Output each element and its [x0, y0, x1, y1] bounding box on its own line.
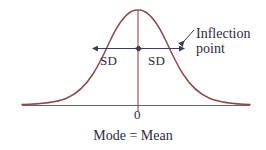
mode-mean-axis-label: Mode = Mean — [0, 128, 266, 143]
sd-left-label: SD — [100, 54, 117, 68]
zero-tick-label: 0 — [134, 108, 141, 122]
bell-curve — [22, 10, 250, 105]
sd-right-label: SD — [148, 54, 165, 68]
inflection-point-label-line2: point — [196, 41, 250, 56]
inflection-leader-line — [181, 30, 195, 45]
normal-distribution-figure: SD SD Inflectionpoint 0 Mode = Mean — [0, 0, 266, 150]
inflection-point-label: Inflectionpoint — [196, 26, 250, 56]
inflection-point-label-line1: Inflection — [196, 26, 250, 41]
